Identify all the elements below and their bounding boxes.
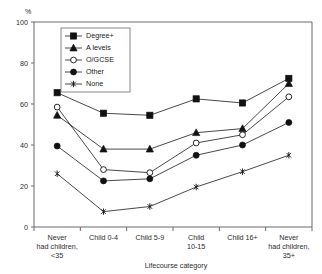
marker-filled-circle: [147, 176, 153, 182]
x-axis-tick-label-line: Never: [48, 233, 68, 242]
y-axis-tick-label: 100: [16, 18, 28, 27]
x-axis-tick-label-line: <35: [51, 251, 63, 260]
marker-filled-circle: [286, 119, 292, 125]
legend-label: None: [86, 79, 103, 88]
marker-open-circle: [147, 170, 153, 176]
y-axis-tick-label: 60: [20, 100, 28, 109]
lifecourse-line-chart: 020406080100 Neverhad children,<35Child …: [0, 0, 322, 274]
x-axis-tick-label-line: Child 0-4: [89, 233, 118, 242]
marker-open-circle: [286, 94, 292, 100]
x-axis-tick-label: Child 16+: [227, 233, 258, 242]
x-axis-tick-label-line: Child 16+: [227, 233, 258, 242]
marker-filled-circle: [193, 152, 199, 158]
y-axis-tick-label: 0: [24, 223, 28, 232]
marker-filled-circle: [101, 178, 107, 184]
chart-container: 020406080100 Neverhad children,<35Child …: [0, 0, 322, 274]
marker-open-circle: [101, 167, 107, 173]
legend-entry[interactable]: Degree+: [65, 31, 114, 40]
marker-filled-square: [239, 100, 245, 106]
x-axis-tick-label-line: 35+: [283, 251, 295, 260]
marker-filled-square: [193, 96, 199, 102]
y-axis-tick-label: 20: [20, 182, 28, 191]
marker-filled-circle: [54, 143, 60, 149]
marker-filled-square: [147, 112, 153, 118]
y-axis-tick-label: 40: [20, 141, 28, 150]
x-axis-tick-label: Child10-15: [187, 233, 205, 251]
x-axis-tick-label-line: Never: [279, 233, 299, 242]
x-axis-tick-label-line: had children,: [268, 242, 309, 251]
marker-filled-circle: [240, 142, 246, 148]
y-axis-unit-label: %: [25, 8, 31, 15]
marker-open-circle: [193, 140, 199, 146]
marker-open-circle: [54, 104, 60, 110]
marker-filled-square: [70, 33, 76, 39]
marker-open-circle: [71, 57, 77, 63]
legend-label: O/GCSE: [86, 55, 114, 64]
legend-label: Degree+: [86, 31, 114, 40]
x-axis-tick-label: Child 5-9: [135, 233, 164, 242]
chart-legend: Degree+A levelsO/GCSEOtherNone: [61, 28, 130, 92]
x-axis-tick-label-line: Child: [188, 233, 204, 242]
legend-label: Other: [86, 67, 105, 76]
x-axis-title: Lifecourse category: [145, 261, 208, 270]
legend-label: A levels: [86, 43, 111, 52]
marker-filled-square: [54, 90, 60, 96]
y-axis-tick-label: 80: [20, 59, 28, 68]
x-axis-tick-label-line: Child 5-9: [135, 233, 164, 242]
marker-filled-square: [100, 110, 106, 116]
marker-open-circle: [240, 132, 246, 138]
x-axis-tick-label-line: 10-15: [187, 242, 205, 251]
x-axis-tick-label-line: had children,: [37, 242, 78, 251]
marker-filled-circle: [71, 69, 77, 75]
x-axis-tick-label: Child 0-4: [89, 233, 118, 242]
